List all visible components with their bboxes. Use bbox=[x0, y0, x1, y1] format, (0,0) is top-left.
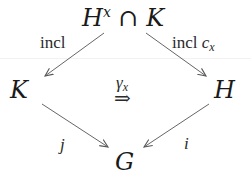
edge-label-top-right-sub: x bbox=[209, 40, 214, 54]
double-arrow-icon: ⇒ bbox=[114, 88, 131, 108]
node-bottom-G: G bbox=[115, 150, 134, 174]
intersection-symbol: ∩ bbox=[118, 4, 138, 32]
edge-label-top-right: incl cx bbox=[172, 34, 215, 53]
commutative-diagram: Hx ∩ K incl incl cx K H γx ⇒ j i G bbox=[0, 0, 251, 179]
node-top-right: K bbox=[146, 4, 164, 32]
edge-label-top-left: incl bbox=[40, 34, 66, 51]
node-top-base: H bbox=[82, 4, 103, 32]
node-top-superscript: x bbox=[103, 4, 111, 20]
arrow-right-to-bottom bbox=[144, 104, 209, 147]
edge-label-top-right-text: incl bbox=[172, 33, 198, 52]
node-left-K: K bbox=[10, 78, 28, 102]
node-right-H: H bbox=[214, 78, 235, 102]
edge-label-right-bottom: i bbox=[184, 135, 189, 152]
node-top-intersection: Hx ∩ K bbox=[82, 5, 164, 30]
arrow-left-to-bottom bbox=[42, 104, 108, 147]
edge-label-left-bottom: j bbox=[60, 136, 65, 153]
